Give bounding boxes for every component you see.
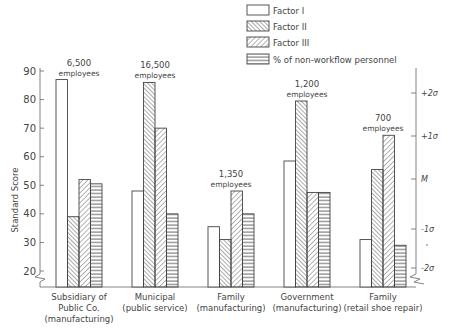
bar-chart: Factor IFactor IIFactor III% of non-work… (0, 0, 450, 333)
bar-group: 700employeesFamily(retail shoe repair) (343, 113, 422, 313)
legend-label: Factor I (273, 6, 304, 16)
legend-swatch (247, 5, 269, 15)
employee-count: 16,500 (140, 60, 170, 70)
y-axis-right: +2σ+1σM-1σ-2σ (410, 68, 439, 284)
category-label: (manufacturing) (44, 314, 113, 324)
legend-label: Factor II (273, 22, 307, 32)
y-tick-label: 60 (23, 151, 36, 162)
y-axis-label: Standard Score (10, 167, 20, 232)
employee-label: employees (211, 180, 252, 189)
bar (243, 214, 255, 287)
legend-label: % of non-workflow personnel (273, 55, 397, 65)
bar-group: 6,500employeesSubsidiary ofPublic Co.(ma… (44, 58, 113, 324)
bar-group: 1,350employeesFamily(manufacturing) (196, 169, 265, 313)
y-tick-label: 70 (23, 123, 36, 134)
bar (284, 161, 296, 287)
bar (395, 245, 407, 287)
category-label: (manufacturing) (196, 303, 265, 313)
bar (360, 240, 372, 287)
bar (383, 135, 395, 287)
legend-label: Factor III (273, 38, 309, 48)
employee-label: employees (59, 69, 100, 78)
legend-swatch (247, 37, 269, 47)
employee-count: 1,200 (295, 79, 319, 89)
y-tick-label: 80 (23, 94, 36, 105)
bar (231, 191, 243, 287)
bar (132, 191, 144, 287)
bar (296, 101, 308, 287)
y-tick-label: 30 (23, 237, 36, 248)
category-label: (retail shoe repair) (343, 303, 422, 313)
bar-groups: 6,500employeesSubsidiary ofPublic Co.(ma… (44, 58, 422, 324)
sigma-tick-label: M (421, 175, 428, 184)
sigma-tick-label: +2σ (421, 89, 439, 98)
y-axis-left: 2030405060708090 (23, 66, 45, 288)
bar (56, 80, 68, 287)
bar (220, 240, 232, 287)
category-label: Family (217, 292, 244, 302)
y-tick-label: 90 (23, 66, 36, 77)
category-label: Public Co. (58, 303, 100, 313)
category-label: (public service) (122, 303, 187, 313)
employee-count: 1,350 (219, 169, 243, 179)
category-label: (manufacturing) (272, 303, 341, 313)
category-label: Subsidiary of (51, 292, 107, 302)
employee-count: 700 (375, 113, 391, 123)
bar (319, 192, 331, 287)
y-tick-label: 20 (23, 266, 36, 277)
sigma-tick-label: -1σ (421, 225, 435, 234)
category-label: Municipal (135, 292, 175, 302)
bar (144, 82, 156, 287)
employee-count: 6,500 (67, 58, 91, 68)
bar (68, 217, 80, 287)
employee-label: employees (287, 90, 328, 99)
employee-label: employees (135, 71, 176, 80)
y-tick-label: 50 (23, 180, 36, 191)
bar-group: 1,200employeesGovernment(manufacturing) (272, 79, 341, 313)
category-label: Family (369, 292, 396, 302)
legend-swatch (247, 21, 269, 31)
bar (208, 227, 220, 287)
bar (79, 180, 91, 287)
bar (372, 170, 384, 287)
bar (167, 214, 179, 287)
sigma-tick-label: +1σ (421, 132, 439, 141)
legend: Factor IFactor IIFactor III% of non-work… (247, 5, 397, 65)
bar (155, 128, 167, 287)
bar-group: 16,500employeesMunicipal(public service) (122, 60, 187, 313)
employee-label: employees (363, 124, 404, 133)
y-tick-label: 40 (23, 208, 36, 219)
category-label: Government (280, 292, 334, 302)
legend-swatch (247, 54, 269, 64)
bar (91, 184, 103, 287)
bar (307, 192, 319, 287)
sigma-tick-label: -2σ (421, 264, 435, 273)
